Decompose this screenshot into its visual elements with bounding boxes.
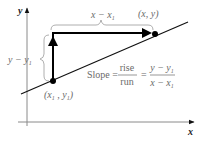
rise-brace [40,35,49,81]
formula-equals: = [141,69,147,80]
formula-prefix: Slope = [87,69,118,80]
point-p2 [152,31,158,37]
formula-run: run [120,76,133,87]
formula-numerator: y − y1 [149,62,174,74]
point-p1 [50,78,56,84]
formula-rise: rise [120,62,135,73]
point-p1-label: (x1 , y1) [44,89,74,101]
run-brace [51,20,153,30]
point-p2-label: (x, y) [138,8,159,20]
run-label: x − x1 [90,9,115,21]
x-axis-label: x [187,126,193,137]
slope-diagram: y x x − x1 y − y1 (x, y) (x1 , y1) Slope… [0,0,209,142]
y-axis-label: y [17,5,23,16]
rise-label: y − y1 [7,54,32,66]
slope-formula: Slope = rise run = y − y1 x − x1 [87,62,175,89]
formula-denominator: x − x1 [149,77,174,89]
